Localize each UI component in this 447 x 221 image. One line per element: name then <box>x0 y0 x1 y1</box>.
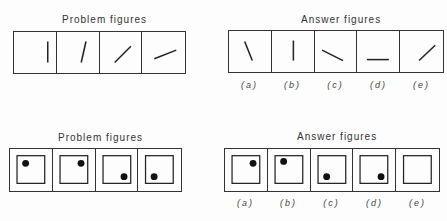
answer-figures-title-1: Answer figures <box>301 14 381 25</box>
inner-square-icon <box>275 156 303 184</box>
answer-label: (e) <box>396 198 439 208</box>
answer-label: (a) <box>228 80 271 90</box>
answer-figures-title-2: Answer figures <box>297 131 377 142</box>
line-segment-icon <box>114 46 130 62</box>
problem-figure-4 <box>142 32 185 73</box>
inner-square-icon <box>60 156 88 184</box>
answer-label: (c) <box>314 80 357 90</box>
answer-label: (e) <box>400 80 443 90</box>
answer-labels-2: (a)(b)(c)(d)(e) <box>224 198 439 208</box>
inner-square-icon <box>17 156 45 184</box>
answer-figure-a <box>229 31 272 72</box>
answer-figure-b <box>272 31 315 72</box>
problem-figure-1 <box>10 149 53 191</box>
answer-figure-b <box>268 149 311 191</box>
answer-figures-row-1 <box>228 30 444 73</box>
answer-figure-d <box>353 149 396 191</box>
dot-icon <box>22 160 29 167</box>
dot-icon <box>323 173 330 180</box>
problem-figure-3 <box>96 149 139 191</box>
inner-square-icon <box>103 156 131 184</box>
line-segment-icon <box>245 41 253 60</box>
line-segment-icon <box>322 50 343 60</box>
problem-figure-2 <box>53 149 96 191</box>
dot-icon <box>280 158 287 165</box>
dot-icon <box>77 160 84 167</box>
answer-figure-e <box>400 31 443 72</box>
answer-label: (d) <box>353 198 396 208</box>
inner-square-icon <box>232 156 260 184</box>
answer-label: (d) <box>357 80 400 90</box>
answer-label: (c) <box>310 198 353 208</box>
inner-square-icon <box>360 156 388 184</box>
answer-figure-c <box>311 149 354 191</box>
dot-icon <box>151 173 158 180</box>
line-segment-icon <box>81 42 86 63</box>
answer-figure-e <box>396 149 439 191</box>
problem-figure-3 <box>100 32 143 73</box>
answer-label: (b) <box>271 80 314 90</box>
problem-figure-2 <box>57 32 100 73</box>
inner-square-icon <box>404 156 432 184</box>
problem-figure-4 <box>138 149 181 191</box>
answer-figure-c <box>315 31 358 72</box>
answer-label: (b) <box>267 198 310 208</box>
answer-labels-1: (a)(b)(c)(d)(e) <box>228 80 443 90</box>
answer-figure-d <box>357 31 400 72</box>
line-segment-icon <box>155 50 177 59</box>
dot-icon <box>250 160 257 167</box>
problem-figures-title-2: Problem figures <box>58 132 143 143</box>
inner-square-icon <box>318 156 346 184</box>
answer-figure-a <box>225 149 268 191</box>
problem-figures-title-1: Problem figures <box>62 14 147 25</box>
answer-figures-row-2 <box>224 148 440 192</box>
problem-figures-row-2 <box>9 148 182 192</box>
answer-label: (a) <box>224 198 267 208</box>
dot-icon <box>378 173 385 180</box>
dot-icon <box>120 173 127 180</box>
problem-figures-row-1 <box>13 31 186 74</box>
line-segment-icon <box>419 45 435 60</box>
problem-figure-1 <box>14 32 57 73</box>
inner-square-icon <box>146 156 174 184</box>
